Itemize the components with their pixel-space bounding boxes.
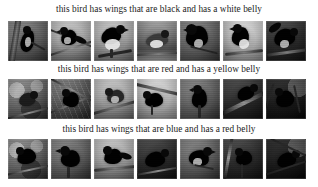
caption-text-2: this bird has wings that are red and has… <box>0 64 318 75</box>
bird-thumbnail-2-1[interactable] <box>8 79 48 119</box>
image-strip-3 <box>8 139 306 179</box>
bird-thumbnail-3-7[interactable] <box>266 139 306 179</box>
bird-thumbnail-1-6[interactable] <box>223 21 263 61</box>
caption-text-1: this bird has wings that are black and h… <box>0 4 318 15</box>
bird-thumbnail-2-2[interactable] <box>51 79 91 119</box>
image-strip-2 <box>8 79 306 119</box>
caption-text-3: this bird has wings that are blue and ha… <box>0 124 318 135</box>
bird-thumbnail-3-2[interactable] <box>51 139 91 179</box>
bird-thumbnail-1-3[interactable] <box>94 21 134 61</box>
bird-thumbnail-3-6[interactable] <box>223 139 263 179</box>
bird-thumbnail-1-2[interactable] <box>51 21 91 61</box>
bird-thumbnail-1-4[interactable] <box>137 21 177 61</box>
bird-thumbnail-1-7[interactable] <box>266 21 306 61</box>
image-strip-1 <box>8 21 306 61</box>
bird-thumbnail-2-4[interactable] <box>137 79 177 119</box>
bird-caption-grid-page: this bird has wings that are black and h… <box>0 0 318 187</box>
bird-thumbnail-3-1[interactable] <box>8 139 48 179</box>
bird-thumbnail-1-5[interactable] <box>180 21 220 61</box>
bird-thumbnail-2-6[interactable] <box>223 79 263 119</box>
bird-thumbnail-3-3[interactable] <box>94 139 134 179</box>
bird-thumbnail-3-4[interactable] <box>137 139 177 179</box>
bird-thumbnail-2-7[interactable] <box>266 79 306 119</box>
bird-thumbnail-3-5[interactable] <box>180 139 220 179</box>
bird-thumbnail-2-5[interactable] <box>180 79 220 119</box>
bird-thumbnail-1-1[interactable] <box>8 21 48 61</box>
bird-thumbnail-2-3[interactable] <box>94 79 134 119</box>
